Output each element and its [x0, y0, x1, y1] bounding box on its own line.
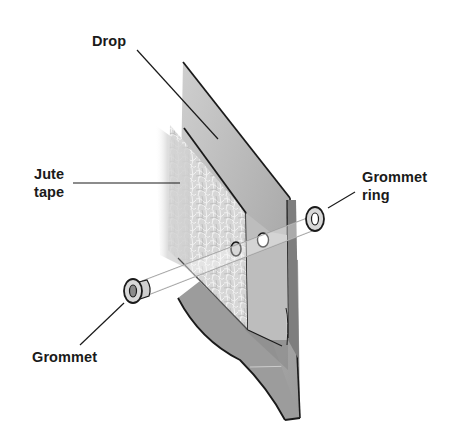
- diagram-illustration: [0, 0, 467, 435]
- label-grommet: Grommet: [32, 348, 97, 366]
- grommet-ring-label-line1: Grommet: [362, 168, 427, 186]
- jute-label-line2: tape: [34, 183, 64, 201]
- grommet-leader-line: [80, 303, 124, 345]
- label-jute-tape: Jute tape: [34, 165, 64, 201]
- drop-label-text: Drop: [92, 33, 126, 49]
- grommet: [124, 279, 150, 303]
- grommet-ring: [306, 207, 324, 231]
- jute-label-line1: Jute: [34, 165, 64, 183]
- grommet-ring-leader-line: [328, 192, 355, 208]
- label-drop: Drop: [92, 32, 126, 50]
- curtain-grommet-diagram: Drop Jute tape Grommet ring Grommet: [0, 0, 467, 435]
- grommet-ring-label-line2: ring: [362, 186, 427, 204]
- grommet-label-text: Grommet: [32, 349, 97, 365]
- label-grommet-ring: Grommet ring: [362, 168, 427, 204]
